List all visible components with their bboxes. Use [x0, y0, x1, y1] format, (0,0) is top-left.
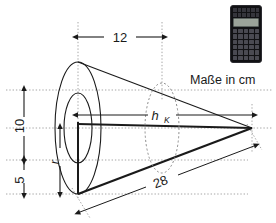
dimension-hk-label-group: h K — [151, 108, 170, 125]
calculator-icon — [230, 5, 262, 63]
calculator-key — [249, 50, 253, 54]
calculator-top-key — [251, 13, 255, 17]
calculator-key — [233, 50, 237, 54]
calculator-top-key — [238, 8, 242, 12]
calculator-key — [249, 34, 253, 38]
calculator-key — [255, 56, 259, 60]
calculator-display — [233, 18, 259, 27]
calculator-key — [255, 34, 259, 38]
calculator-top-key — [256, 13, 260, 17]
calculator-top-key — [251, 8, 255, 12]
calculator-key — [238, 29, 242, 33]
calculator-key — [238, 40, 242, 44]
calculator-keypad — [233, 29, 259, 60]
calculator-key — [244, 50, 248, 54]
dimension-10-label: 10 — [12, 119, 27, 133]
calculator-key — [249, 45, 253, 49]
calculator-key — [244, 56, 248, 60]
calculator-key — [238, 50, 242, 54]
calculator-top-key — [233, 13, 237, 17]
calculator-key — [244, 40, 248, 44]
dimension-28-label: 28 — [151, 172, 170, 191]
calculator-top-key — [247, 8, 251, 12]
calculator-top-key — [238, 13, 242, 17]
geometry-figure: 12 10 5 r h K — [0, 0, 276, 223]
dimension-28-line-lower — [80, 187, 146, 212]
calculator-key — [238, 45, 242, 49]
calculator-key — [255, 40, 259, 44]
dimension-hk-subscript: K — [164, 115, 170, 125]
dimension-r-label: r — [47, 159, 62, 164]
dimension-12-label: 12 — [113, 30, 127, 45]
calculator-key — [233, 34, 237, 38]
calculator-key — [249, 56, 253, 60]
calculator-key — [233, 29, 237, 33]
calculator-top-key — [256, 8, 260, 12]
calculator-top-key — [233, 8, 237, 12]
units-note: Maße in cm — [190, 73, 255, 87]
calculator-key — [233, 40, 237, 44]
calculator-key — [255, 50, 259, 54]
calculator-key — [238, 56, 242, 60]
calculator-key — [244, 29, 248, 33]
calculator-key — [255, 45, 259, 49]
dimension-hk-symbol: h — [151, 108, 158, 123]
calculator-top-key — [242, 8, 246, 12]
dimension-5-label: 5 — [12, 176, 27, 183]
calculator-top-key — [247, 13, 251, 17]
calculator-key — [249, 40, 253, 44]
calculator-top-key — [242, 13, 246, 17]
calculator-top-keys — [233, 8, 259, 17]
calculator-key — [244, 34, 248, 38]
calculator-key — [238, 34, 242, 38]
dimension-28-line-upper — [178, 146, 254, 175]
calculator-key — [249, 29, 253, 33]
calculator-key — [255, 29, 259, 33]
calculator-key — [233, 45, 237, 49]
calculator-key — [244, 45, 248, 49]
calculator-key — [233, 56, 237, 60]
